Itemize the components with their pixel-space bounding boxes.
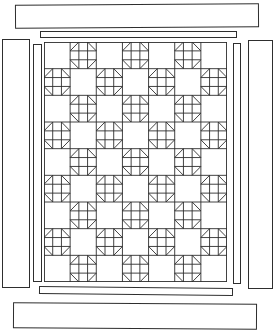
- pieced-block: [70, 95, 96, 122]
- pieced-block: [201, 229, 227, 256]
- inner-border-strip-right: [233, 43, 241, 284]
- pieced-block: [70, 149, 96, 176]
- pieced-block: [149, 122, 175, 149]
- pieced-block: [122, 42, 148, 69]
- quilt-panel-svg: [44, 42, 227, 282]
- pieced-block: [201, 122, 227, 149]
- pieced-block: [201, 69, 227, 96]
- quilt-diagram: [0, 0, 277, 334]
- pieced-block: [122, 95, 148, 122]
- pieced-block: [201, 175, 227, 202]
- quilt-panel: [44, 42, 227, 282]
- inner-border-strip-left: [33, 44, 42, 282]
- outer-border-strip-right: [248, 40, 273, 289]
- outer-border-strip-bottom: [13, 302, 257, 329]
- pieced-block: [175, 42, 201, 69]
- outer-border-strip-top: [15, 3, 259, 29]
- pieced-block: [70, 255, 96, 282]
- pieced-block: [96, 175, 122, 202]
- pieced-block: [44, 122, 70, 149]
- pieced-block: [175, 255, 201, 282]
- inner-border-strip-top: [40, 31, 237, 38]
- pieced-block: [149, 229, 175, 256]
- outer-border-strip-left: [2, 39, 30, 288]
- pieced-block: [96, 229, 122, 256]
- pieced-block: [122, 255, 148, 282]
- pieced-block: [175, 149, 201, 176]
- pieced-block: [44, 175, 70, 202]
- inner-border-strip-bottom: [39, 286, 233, 296]
- pieced-block: [175, 95, 201, 122]
- pieced-block: [70, 42, 96, 69]
- pieced-block: [149, 175, 175, 202]
- pieced-block: [96, 69, 122, 96]
- pieced-block: [122, 202, 148, 229]
- pieced-block: [44, 69, 70, 96]
- pieced-block: [96, 122, 122, 149]
- pieced-block: [122, 149, 148, 176]
- pieced-block: [175, 202, 201, 229]
- pieced-block: [149, 69, 175, 96]
- pieced-block: [70, 202, 96, 229]
- pieced-block: [44, 229, 70, 256]
